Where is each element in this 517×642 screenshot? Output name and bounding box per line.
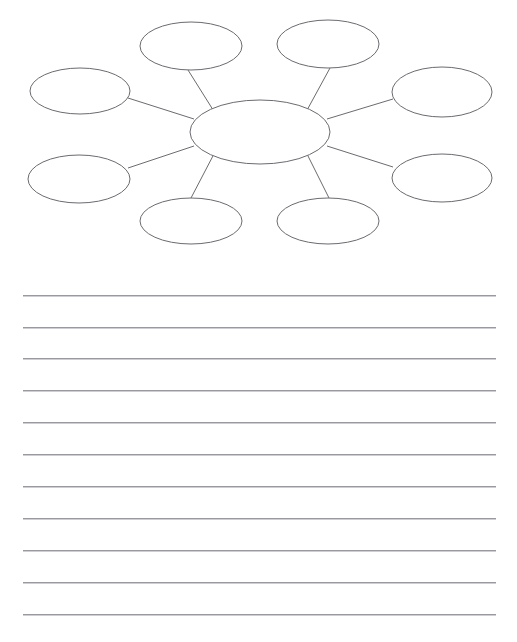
spoke-center-to-node-8 [306,152,329,198]
writing-line[interactable] [23,390,496,391]
writing-line[interactable] [23,518,496,519]
writing-line[interactable] [23,358,496,359]
spoke-center-to-node-4 [327,99,393,119]
node-ellipse-3[interactable] [30,68,130,114]
writing-line[interactable] [23,614,496,615]
writing-line[interactable] [23,454,496,455]
spoke-center-to-node-1 [188,70,215,113]
worksheet-page: Name: Date: [0,0,517,642]
spoke-center-to-node-6 [327,146,393,167]
node-ellipses [28,20,492,244]
writing-line[interactable] [23,422,496,423]
spoke-center-to-node-2 [306,68,330,112]
node-ellipse-8[interactable] [277,198,379,244]
spoke-center-to-node-7 [191,152,215,198]
spoke-center-to-node-5 [128,146,194,168]
spoke-center-to-node-3 [128,98,194,119]
writing-line[interactable] [23,295,496,296]
writing-line[interactable] [23,486,496,487]
writing-line[interactable] [23,327,496,328]
center-ellipse[interactable] [190,100,330,164]
spider-web-diagram [0,0,517,262]
node-ellipse-6[interactable] [392,154,492,202]
node-ellipse-4[interactable] [392,67,492,117]
writing-line[interactable] [23,550,496,551]
node-ellipse-1[interactable] [140,22,242,70]
writing-lines [0,262,517,642]
node-ellipse-5[interactable] [28,155,130,203]
node-ellipse-2[interactable] [277,20,379,68]
node-ellipse-7[interactable] [140,198,242,244]
writing-line[interactable] [23,582,496,583]
